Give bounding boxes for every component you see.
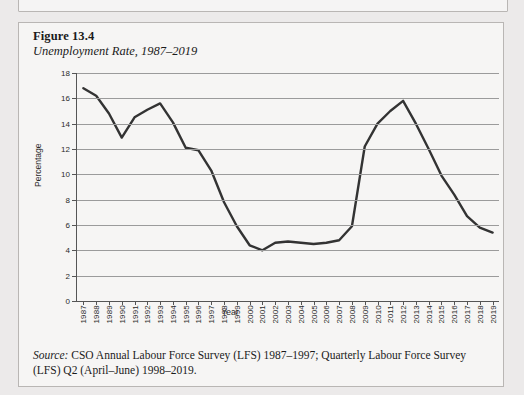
y-tick-label: 12 (61, 145, 70, 154)
y-tick-label: 6 (66, 221, 70, 230)
gridline (77, 149, 499, 150)
gridline (77, 276, 499, 277)
source-label: Source: (33, 349, 68, 361)
y-tick-mark (72, 225, 77, 226)
gridline (77, 73, 499, 74)
y-tick-mark (72, 174, 77, 175)
gridline (77, 98, 499, 99)
y-tick-label: 18 (61, 69, 70, 78)
y-tick-mark (72, 98, 77, 99)
gridline (77, 174, 499, 175)
y-tick-mark (72, 276, 77, 277)
gridline (77, 250, 499, 251)
x-tick-label: 2016 (450, 305, 459, 324)
x-tick-label: 2019 (489, 305, 498, 324)
unemployment-rate-chart: Percentage 02468101214161819871988198919… (19, 23, 505, 388)
x-tick-label: 2017 (463, 305, 472, 324)
y-tick-mark (72, 149, 77, 150)
y-tick-mark (72, 73, 77, 74)
y-tick-mark (72, 250, 77, 251)
source-text: CSO Annual Labour Force Survey (LFS) 198… (33, 349, 466, 376)
gridline (77, 225, 499, 226)
previous-figure-box-partial (18, 0, 508, 12)
y-tick-label: 14 (61, 119, 70, 128)
y-tick-label: 8 (66, 195, 70, 204)
x-axis-label-holder: Year (19, 307, 441, 317)
x-tick-label: 2018 (476, 305, 485, 324)
y-tick-label: 4 (66, 246, 70, 255)
figure-source-note: Source: CSO Annual Labour Force Survey (… (33, 348, 491, 377)
y-tick-mark (72, 200, 77, 201)
y-tick-mark (72, 124, 77, 125)
figure-panel: Figure 13.4 Unemployment Rate, 1987–2019… (18, 22, 504, 387)
y-tick-label: 0 (66, 297, 70, 306)
unemployment-line-series (77, 73, 499, 301)
gridline (77, 124, 499, 125)
y-axis-label: Percentage (33, 144, 43, 187)
plot-area: 0246810121416181987198819891990199119921… (76, 73, 499, 302)
x-axis-label: Year (221, 307, 238, 317)
y-tick-label: 16 (61, 94, 70, 103)
y-tick-mark (72, 301, 77, 302)
gridline (77, 200, 499, 201)
y-tick-label: 2 (66, 271, 70, 280)
y-tick-label: 10 (61, 170, 70, 179)
series-path (83, 88, 492, 250)
